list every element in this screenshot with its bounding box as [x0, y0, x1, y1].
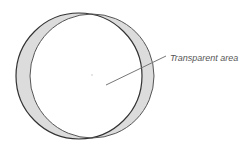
transparent-area-label: Transparent area: [170, 53, 238, 63]
center-dot: [91, 74, 92, 75]
overlapping-circles-diagram: Transparent area: [0, 0, 240, 152]
shaded-crescents: [16, 13, 154, 139]
